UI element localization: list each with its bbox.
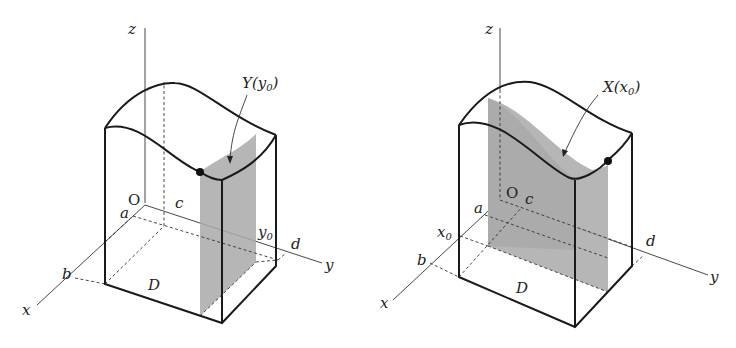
origin-label: O [128,191,140,209]
z-label: z [127,20,136,38]
y-label: y [709,268,719,286]
b-label: b [417,251,427,269]
right-figure: z x y O a b c d x0 X(x0) D [380,20,719,327]
section-X-label: X(x0) [602,78,640,97]
point-marker [196,168,204,176]
point-marker [604,157,612,165]
x-label: x [22,301,31,319]
y0-label: y0 [257,223,273,242]
x0-label: x0 [437,223,452,242]
section-Y-label: Y(y0) [242,74,279,93]
left-figure: z x y O a b c d y0 Y(y0) D [22,20,334,323]
y-label: y [324,256,334,274]
a-label: a [120,204,129,222]
x-label: x [380,294,389,312]
b-label: b [62,265,72,283]
region-D-label: D [515,279,528,297]
c-label: c [175,194,184,212]
x-axis [393,200,500,300]
d-label: d [646,232,656,250]
cross-section-diagrams: z x y O a b c d y0 Y(y0) D [0,0,736,348]
z-label: z [484,20,493,38]
c-label: c [525,190,534,208]
region-D-label: D [147,276,160,294]
a-label: a [474,199,483,217]
d-label: d [291,235,301,253]
origin-label: O [506,184,518,202]
